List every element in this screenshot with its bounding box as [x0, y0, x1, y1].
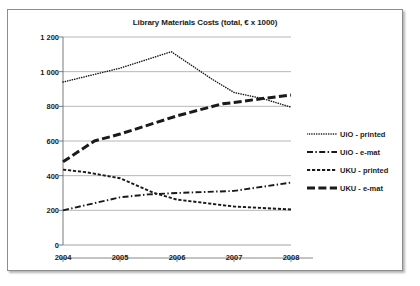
chart-plot-container: Library Materials Costs (total, € x 1000…: [11, 13, 399, 267]
legend-line-swatch: [307, 165, 337, 175]
y-tick-label: 0: [13, 241, 59, 250]
y-axis: 02004006008001 0001 200: [11, 37, 59, 245]
series-line-3: [63, 95, 291, 162]
legend-label: UKU - e-mat: [340, 184, 383, 193]
chart-legend: UiO - printedUiO - e-matUKU - printedUKU…: [307, 125, 403, 197]
chart-card: Library Materials Costs (total, € x 1000…: [7, 9, 403, 271]
y-tick-label: 600: [13, 137, 59, 146]
legend-line-swatch: [307, 183, 337, 193]
legend-item[interactable]: UKU - printed: [307, 161, 403, 179]
x-tick-label: 2005: [112, 253, 129, 262]
y-tick-label: 800: [13, 102, 59, 111]
y-tick-label: 400: [13, 171, 59, 180]
legend-label: UiO - printed: [340, 130, 385, 139]
x-tick-label: 2006: [169, 253, 186, 262]
series-line-1: [63, 183, 291, 211]
legend-item[interactable]: UiO - printed: [307, 125, 403, 143]
x-axis: 20042005200620072008: [63, 253, 291, 267]
x-tick-label: 2007: [226, 253, 243, 262]
legend-label: UiO - e-mat: [340, 148, 380, 157]
y-tick-label: 200: [13, 206, 59, 215]
x-tick-label: 2008: [283, 253, 300, 262]
y-tick-label: 1 200: [13, 33, 59, 42]
legend-line-swatch: [307, 147, 337, 157]
y-tick-label: 1 000: [13, 67, 59, 76]
legend-label: UKU - printed: [340, 166, 388, 175]
legend-item[interactable]: UKU - e-mat: [307, 179, 403, 197]
chart-title: Library Materials Costs (total, € x 1000…: [11, 18, 399, 27]
legend-item[interactable]: UiO - e-mat: [307, 143, 403, 161]
plot-area: [63, 37, 291, 245]
x-tick-label: 2004: [55, 253, 72, 262]
plot-svg: [63, 37, 291, 245]
legend-line-swatch: [307, 129, 337, 139]
